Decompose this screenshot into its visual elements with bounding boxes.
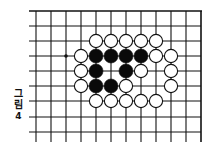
white-stone <box>89 34 102 47</box>
star-points <box>64 54 68 58</box>
white-stone <box>134 94 147 107</box>
black-stone <box>119 64 133 78</box>
white-stone <box>74 49 87 62</box>
black-stone <box>119 49 133 63</box>
white-stone <box>119 34 132 47</box>
white-stone <box>74 64 87 77</box>
caption-char-2: 림 <box>14 100 23 110</box>
white-stone <box>119 94 132 107</box>
white-stone <box>119 79 132 92</box>
black-stone <box>89 49 103 63</box>
white-stone <box>149 94 162 107</box>
white-stone <box>164 79 177 92</box>
go-board <box>0 0 212 150</box>
caption-char-1: 그 <box>14 89 23 99</box>
black-stone <box>89 79 103 93</box>
star-point-icon <box>64 54 68 58</box>
black-stone <box>134 49 148 63</box>
white-stone <box>164 49 177 62</box>
caption-figure-number: 4 <box>15 112 21 122</box>
white-stone <box>104 34 117 47</box>
white-stone <box>134 64 147 77</box>
white-stone <box>164 64 177 77</box>
white-stone <box>89 94 102 107</box>
black-stone <box>104 79 118 93</box>
white-stone <box>134 34 147 47</box>
white-stone <box>149 34 162 47</box>
black-stone <box>89 64 103 78</box>
white-stone <box>104 94 117 107</box>
black-stone <box>104 49 118 63</box>
board-grid-lines <box>29 11 202 142</box>
white-stone <box>74 79 87 92</box>
figure-caption: 그 림 4 <box>12 89 25 123</box>
go-diagram: 그 림 4 <box>0 0 212 150</box>
white-stone <box>149 49 162 62</box>
